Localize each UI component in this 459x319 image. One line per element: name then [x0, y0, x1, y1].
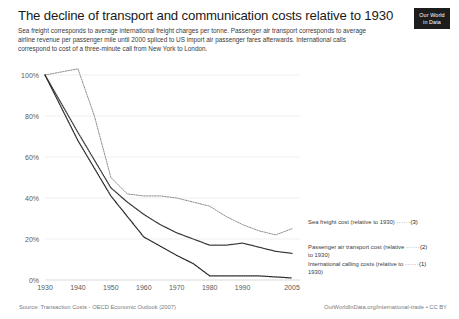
x-axis-tick-labels: 19301940195019601970198019902005: [37, 284, 300, 291]
legend-marker-air-transport: (2): [420, 244, 427, 250]
gridlines: [45, 75, 300, 280]
x-axis-tick: 1990: [235, 284, 251, 291]
y-axis-tick: 80%: [25, 113, 39, 120]
series-line-1: [45, 75, 292, 278]
data-series-lines: [45, 69, 292, 278]
legend-item-sea-freight[interactable]: Sea freight cost (relative to 1930) ····…: [308, 219, 454, 227]
x-axis-tick: 1930: [37, 284, 53, 291]
x-axis-tick: 1970: [169, 284, 185, 291]
x-axis-tick: 1950: [103, 284, 119, 291]
footer-source: Source: Transaction Costs - OECD Economi…: [19, 304, 176, 310]
legend-label-air-transport: Passenger air transport cost (relative: [308, 244, 404, 250]
legend-dots-sea-freight: ······: [396, 219, 410, 225]
x-axis-tick: 2005: [284, 284, 300, 291]
legend-item-air-transport[interactable]: Passenger air transport cost (relative ·…: [308, 244, 454, 259]
legend-dots-international-calling: ······: [405, 261, 419, 267]
legend-marker-sea-freight: (3): [411, 219, 418, 225]
y-axis-tick: 20%: [25, 236, 39, 243]
x-axis-tick: 1960: [136, 284, 152, 291]
y-axis-tick: 40%: [25, 195, 39, 202]
legend-label-international-calling-line2: 1930): [308, 269, 454, 277]
y-axis-tick: 100%: [21, 72, 39, 79]
y-axis-tick-labels: 0%20%40%60%80%100%: [21, 72, 39, 284]
footer-attribution[interactable]: OurWorldInData.org/international-trade •…: [324, 304, 447, 310]
legend-label-international-calling: International calling costs (relative to: [308, 261, 403, 267]
y-axis-tick: 0%: [29, 277, 39, 284]
legend-marker-international-calling: (1): [419, 261, 426, 267]
legend-dots-air-transport: ······: [406, 244, 420, 250]
y-axis-tick: 60%: [25, 154, 39, 161]
x-axis-tick: 1940: [70, 284, 86, 291]
legend-label-air-transport-line2: to 1930): [308, 252, 454, 260]
series-line-2: [45, 75, 292, 253]
legend-label-sea-freight: Sea freight cost (relative to 1930): [308, 219, 395, 225]
x-axis-tick: 1980: [202, 284, 218, 291]
legend-item-international-calling[interactable]: International calling costs (relative to…: [308, 261, 454, 276]
chart-page: The decline of transport and communicati…: [0, 0, 459, 319]
series-line-3: [45, 69, 292, 235]
